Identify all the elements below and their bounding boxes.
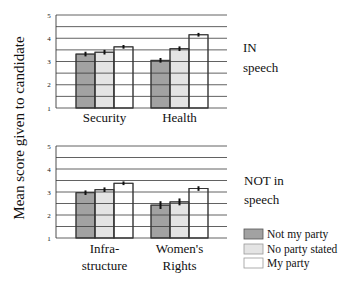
bar-my-party — [114, 183, 133, 238]
y-tick-label: 2 — [47, 212, 51, 220]
category-label: Women's — [156, 241, 204, 256]
bar-no-party-stated — [170, 49, 189, 108]
category-label: Infra- — [90, 241, 120, 256]
panel-label-in-line1: IN — [243, 40, 257, 55]
legend-swatch-no-party-stated — [244, 244, 263, 254]
legend-swatch-my-party — [244, 258, 263, 268]
y-tick-label: 3 — [47, 58, 51, 66]
y-tick-label: 1 — [47, 105, 51, 113]
panel-label-not-line1: NOT in — [244, 173, 284, 188]
figure: Mean score given to candidate 12345Secur… — [0, 0, 354, 283]
category-label: Security — [83, 110, 127, 125]
bar-no-party-stated — [95, 52, 114, 108]
y-tick-label: 5 — [47, 12, 51, 20]
bar-my-party — [189, 189, 208, 238]
panel-not-in-speech: 12345Infra-structureWomen'sRights — [47, 143, 227, 274]
category-label: structure — [82, 258, 128, 273]
bar-no-party-stated — [95, 190, 114, 238]
legend-label-no-party-stated: No party stated — [267, 243, 338, 256]
category-label: Rights — [163, 258, 197, 273]
panel-label-in-line2: speech — [243, 60, 279, 75]
legend-label-my-party: My party — [267, 257, 310, 270]
y-tick-label: 2 — [47, 81, 51, 89]
chart-svg: Mean score given to candidate 12345Secur… — [0, 0, 354, 283]
panel-label-not-line2: speech — [244, 192, 280, 207]
y-tick-label: 5 — [47, 143, 51, 151]
y-tick-label: 4 — [47, 35, 51, 43]
y-axis-label: Mean score given to candidate — [11, 36, 27, 220]
y-tick-label: 4 — [47, 166, 51, 174]
legend-label-not-my-party: Not my party — [267, 228, 329, 241]
panel-in-speech: 12345SecurityHealth — [47, 12, 227, 126]
y-tick-label: 3 — [47, 189, 51, 197]
bar-no-party-stated — [170, 202, 189, 238]
y-tick-label: 1 — [47, 235, 51, 243]
bar-not-my-party — [76, 54, 95, 108]
legend: Not my party No party stated My party — [244, 228, 338, 270]
bar-not-my-party — [151, 205, 170, 238]
category-label: Health — [162, 110, 197, 125]
bar-my-party — [189, 35, 208, 108]
bar-not-my-party — [151, 60, 170, 108]
legend-swatch-not-my-party — [244, 229, 263, 239]
bar-my-party — [114, 47, 133, 108]
